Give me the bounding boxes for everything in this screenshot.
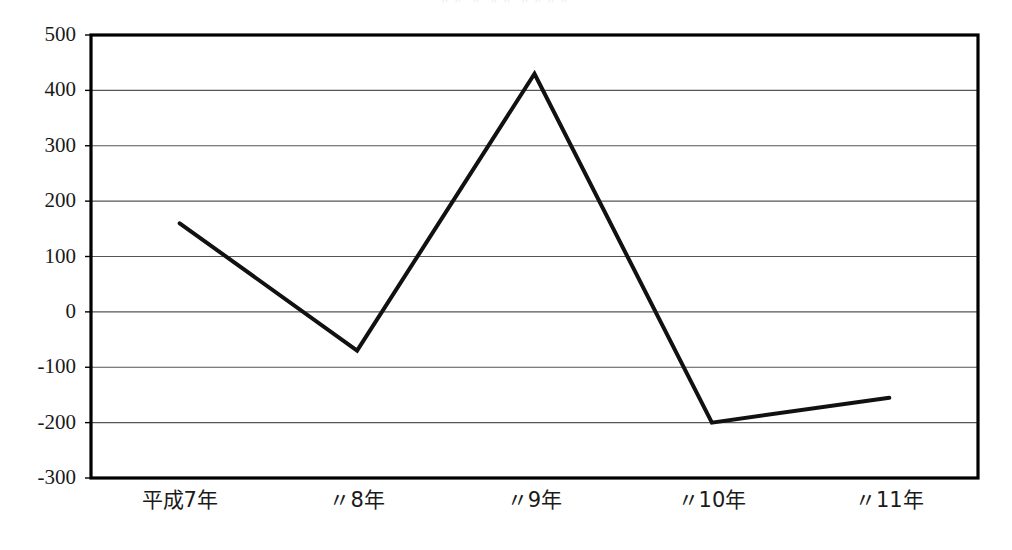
x-axis-tick-labels: 平成7年〃8年〃9年〃10年〃11年: [0, 0, 1012, 550]
x-tick-label: 平成7年: [100, 488, 260, 512]
x-tick-label: 〃10年: [632, 488, 792, 512]
x-tick-label: 〃8年: [277, 488, 437, 512]
line-chart: 〃〃 〃 〃〃 〃〃〃〃 5004003002001000-100-200-30…: [0, 0, 1012, 550]
x-tick-label: 〃11年: [809, 488, 969, 512]
x-tick-label: 〃9年: [455, 488, 615, 512]
